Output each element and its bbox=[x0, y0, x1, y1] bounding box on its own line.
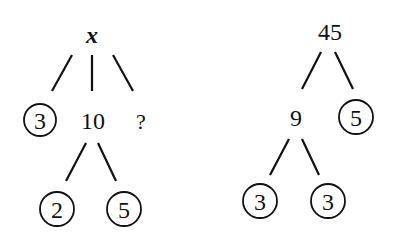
factor-trees-diagram: x 3 10 ? 2 5 45 9 5 3 3 bbox=[0, 0, 393, 239]
edge-x-to-3 bbox=[52, 55, 72, 91]
edge-45-to-5 bbox=[335, 52, 353, 89]
root-node-x: x bbox=[85, 22, 98, 48]
node-10: 10 bbox=[81, 108, 105, 134]
edge-9-to-3b bbox=[302, 139, 319, 175]
edge-9-to-3a bbox=[270, 139, 289, 175]
node-3-prime-b: 3 bbox=[322, 189, 334, 215]
root-node-45: 45 bbox=[318, 19, 342, 45]
edge-45-to-9 bbox=[302, 52, 321, 89]
right-factor-tree: 45 9 5 3 3 bbox=[243, 19, 373, 218]
node-2-prime: 2 bbox=[51, 197, 63, 223]
node-3-prime: 3 bbox=[34, 108, 46, 134]
edge-x-to-question bbox=[113, 55, 133, 91]
edge-10-to-5 bbox=[98, 143, 116, 181]
node-5-prime: 5 bbox=[350, 105, 362, 131]
node-3-prime-a: 3 bbox=[254, 189, 266, 215]
node-9: 9 bbox=[290, 105, 302, 131]
edge-10-to-2 bbox=[66, 143, 86, 181]
node-unknown: ? bbox=[136, 109, 146, 134]
node-5-prime: 5 bbox=[118, 197, 130, 223]
left-factor-tree: x 3 10 ? 2 5 bbox=[24, 22, 146, 226]
